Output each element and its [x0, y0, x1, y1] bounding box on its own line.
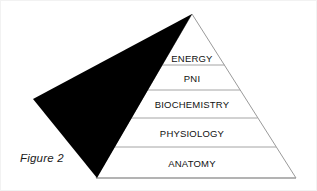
tier-label-biochemistry: BIOCHEMISTRY: [155, 99, 230, 110]
figure-container: ENERGY PNI BIOCHEMISTRY PHYSIOLOGY ANATO…: [0, 0, 317, 191]
tier-label-energy: ENERGY: [171, 53, 212, 64]
figure-caption: Figure 2: [20, 152, 64, 164]
tier-label-physiology: PHYSIOLOGY: [160, 128, 224, 139]
tier-label-pni: PNI: [184, 73, 200, 84]
tier-label-anatomy: ANATOMY: [168, 158, 216, 169]
